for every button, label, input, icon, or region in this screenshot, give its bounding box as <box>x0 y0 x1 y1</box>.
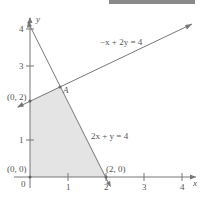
line1-arrow-end <box>185 24 192 30</box>
point-2-0 <box>105 176 108 179</box>
point-A-label: A <box>62 85 69 95</box>
y-tick-4: 4 <box>19 24 24 34</box>
x-axis-label: x <box>192 178 197 188</box>
point-0-0-label: (0, 0) <box>7 164 27 174</box>
y-tick-3: 3 <box>19 61 24 71</box>
x-tick-1: 1 <box>66 182 71 192</box>
origin-label: 0 <box>21 179 26 189</box>
point-A <box>59 86 62 89</box>
point-0-2-label: (0, 2) <box>7 92 27 102</box>
point-0-2 <box>29 100 32 103</box>
x-tick-4: 4 <box>180 182 185 192</box>
x-tick-3: 3 <box>142 182 147 192</box>
line1-label: −x + 2y = 4 <box>100 37 143 47</box>
line2-label: 2x + y = 4 <box>91 131 129 141</box>
x-tick-2: 2 <box>104 182 109 192</box>
point-0-0 <box>29 176 32 179</box>
y-axis-label: y <box>35 14 40 24</box>
line1-arrow-start <box>17 102 24 108</box>
y-tick-1: 1 <box>19 135 24 145</box>
chart: y x 0 1 2 3 4 1 3 4 −x + 2y = 4 2x + y =… <box>0 0 204 205</box>
point-2-0-label: (2, 0) <box>106 164 126 174</box>
